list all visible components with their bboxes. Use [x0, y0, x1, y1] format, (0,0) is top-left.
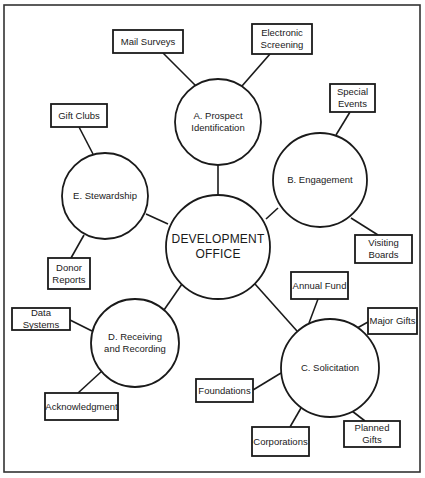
visiting-boards-label: Visiting Boards [355, 235, 412, 263]
mail-surveys-label: Mail Surveys [113, 30, 183, 53]
function-a-label: A. Prospect Identification [176, 104, 260, 140]
acknowledgment-label: Acknowledgment [45, 393, 118, 420]
major-gifts-label: Major Gifts [368, 308, 417, 334]
foundations-label: Foundations [196, 379, 253, 402]
function-c-label: C. Solicitation [284, 358, 376, 378]
electronic-screening-label: Electronic Screening [252, 24, 312, 54]
function-d-label: D. Receiving and Recording [92, 325, 178, 361]
planned-gifts-label: Planned Gifts [344, 421, 400, 447]
function-e-label: E. Stewardship [62, 186, 148, 206]
center-label: DEVELOPMENT OFFICE [166, 225, 270, 269]
corporations-label: Corporations [252, 427, 309, 456]
function-b-label: B. Engagement [274, 170, 366, 190]
data-systems-label: Data Systems [12, 308, 70, 330]
gift-clubs-label: Gift Clubs [51, 104, 107, 127]
annual-fund-label: Annual Fund [291, 272, 348, 299]
special-events-label: Special Events [330, 84, 375, 112]
donor-reports-label: Donor Reports [48, 258, 90, 289]
